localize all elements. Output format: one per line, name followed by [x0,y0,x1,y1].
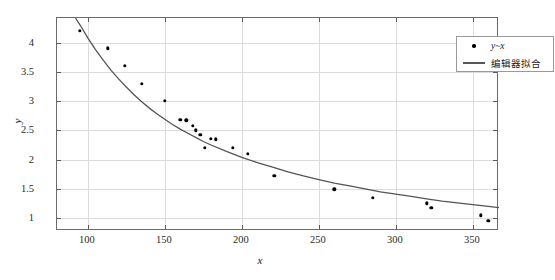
data-point [163,99,166,102]
x-tick-label: 150 [156,234,172,245]
data-point [333,188,336,191]
legend-item-fit: 编辑器拟合 [457,54,555,72]
y-tick-label: 1.5 [0,182,34,193]
data-point [140,82,143,85]
y-tick-label: 4 [0,36,34,47]
data-point [199,133,202,136]
line-marker-icon [457,62,491,63]
legend-item-data: y~x [457,37,555,55]
plot-area: y~x 编辑器拟合 [56,17,498,230]
y-tick-label: 2 [0,153,34,164]
y-tick-label: 3 [0,95,34,106]
data-point [214,137,217,140]
data-point [487,219,490,222]
y-tick-label: 3.5 [0,65,34,76]
x-axis-title: x [0,254,520,266]
data-point [231,146,234,149]
data-point [123,64,126,67]
y-tick-label: 2.5 [0,124,34,135]
legend: y~x 编辑器拟合 [456,36,554,72]
x-tick-label: 300 [387,234,403,245]
data-point [194,129,197,132]
legend-label-fit: 编辑器拟合 [491,56,541,70]
data-point [185,119,188,122]
data-point [78,29,81,32]
data-point [371,196,374,199]
data-point [179,118,182,121]
data-point [246,152,249,155]
data-point [479,213,482,216]
data-point [425,202,428,205]
x-tick-label: 250 [310,234,326,245]
data-point [203,146,206,149]
data-point [106,47,109,50]
y-tick-label: 1 [0,212,34,223]
data-point [209,137,212,140]
legend-label-data: y~x [491,41,505,51]
data-point [430,206,433,209]
scatter-points [57,18,499,231]
y-axis-title: y [11,119,23,124]
data-point [191,124,194,127]
data-point [272,174,275,177]
x-tick-label: 350 [464,234,480,245]
x-tick-label: 100 [79,234,95,245]
dot-marker-icon [457,44,491,47]
x-tick-label: 200 [233,234,249,245]
